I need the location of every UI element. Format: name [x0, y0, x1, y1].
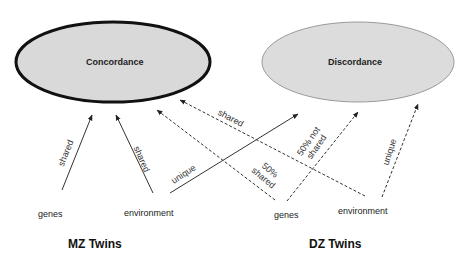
- concordance-label: Concordance: [86, 57, 144, 67]
- mz-twins-title: MZ Twins: [68, 237, 122, 251]
- diagram-canvas: [0, 0, 465, 260]
- dz-genes-label: genes: [274, 210, 299, 220]
- dz-environment-label: environment: [338, 206, 388, 216]
- mz-environment-label: environment: [124, 208, 174, 218]
- arrow-dz-genes-50-not-shared: [287, 112, 358, 201]
- dz-twins-title: DZ Twins: [309, 237, 361, 251]
- arrow-dz-genes-50-shared: [157, 110, 275, 200]
- discordance-label: Discordance: [328, 57, 382, 67]
- mz-genes-label: genes: [38, 209, 63, 219]
